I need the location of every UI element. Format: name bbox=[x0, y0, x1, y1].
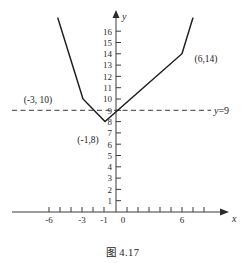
x-tick-label-6: 6 bbox=[180, 215, 185, 225]
x-axis-label: x bbox=[231, 213, 237, 224]
y-tick-label-10: 10 bbox=[103, 94, 113, 104]
x-tick-label-neg3: -3 bbox=[78, 215, 86, 225]
y-tick-label-15: 15 bbox=[103, 38, 113, 48]
annotation-asymptote: y=9 bbox=[213, 105, 229, 116]
plot-area: 1 2 3 4 5 6 7 8 9 10 11 12 13 14 15 16 -… bbox=[0, 0, 245, 263]
y-tick-label-4: 4 bbox=[108, 162, 113, 172]
y-tick-label-5: 5 bbox=[108, 151, 113, 161]
y-tick-label-16: 16 bbox=[103, 27, 113, 37]
figure-caption: 图 4.17 bbox=[0, 244, 245, 259]
x-tick-label-neg6: -6 bbox=[45, 215, 53, 225]
y-axis-ticks bbox=[116, 31, 121, 201]
y-tick-label-13: 13 bbox=[103, 60, 113, 70]
piecewise-curve bbox=[58, 18, 193, 122]
x-axis-ticks bbox=[49, 207, 204, 212]
y-axis-label: y bbox=[121, 11, 127, 22]
y-tick-label-7: 7 bbox=[108, 128, 113, 138]
asymptote-value: =9 bbox=[218, 105, 229, 116]
x-tick-label-neg1: -1 bbox=[100, 215, 108, 225]
annotation-vertex: (-1,8) bbox=[77, 135, 98, 146]
x-tick-label-0: 0 bbox=[121, 215, 126, 225]
annotation-left-break: (-3, 10) bbox=[24, 95, 53, 106]
y-tick-label-6: 6 bbox=[108, 140, 113, 150]
y-tick-label-14: 14 bbox=[103, 49, 113, 59]
y-axis-arrow-icon bbox=[113, 10, 120, 18]
annotation-right-break: (6,14) bbox=[195, 54, 218, 65]
y-tick-label-1: 1 bbox=[108, 196, 113, 206]
y-tick-label-2: 2 bbox=[108, 185, 113, 195]
figure-container: 1 2 3 4 5 6 7 8 9 10 11 12 13 14 15 16 -… bbox=[0, 0, 245, 263]
y-tick-label-12: 12 bbox=[103, 72, 112, 82]
x-axis-arrow-icon bbox=[220, 209, 229, 216]
y-tick-label-3: 3 bbox=[108, 173, 113, 183]
y-tick-label-11: 11 bbox=[103, 83, 112, 93]
